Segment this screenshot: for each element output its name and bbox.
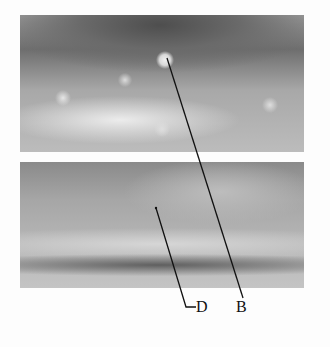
photo-bottom-panel <box>20 162 304 288</box>
photo-top-panel <box>20 15 304 152</box>
callout-label-b: B <box>236 299 247 315</box>
callout-label-d: D <box>196 299 208 315</box>
